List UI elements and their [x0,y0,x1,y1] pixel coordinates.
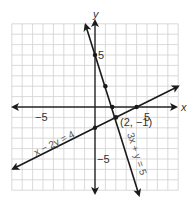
x-axis-label: x [180,101,187,113]
coordinate-graph: x y −5 5 5 −5 (2, −1) x − 2y = 4 3x + y … [0,0,195,206]
tick-y-pos5: 5 [98,49,104,61]
tick-x-neg5: −5 [35,111,48,123]
label-x-minus-2y-eq-4: x − 2y = 4 [32,128,77,158]
y-axis-label: y [92,8,100,20]
solution-point-marker [113,115,118,120]
tick-y-neg5: −5 [97,153,110,165]
solution-point-label: (2, −1) [120,116,152,128]
